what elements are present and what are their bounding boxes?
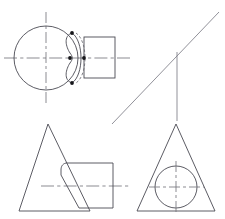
diagonal-construction-line bbox=[112, 12, 219, 124]
vertex-dot-top bbox=[70, 31, 74, 35]
vertex-dot-inner bbox=[68, 56, 72, 60]
curved-block-outline bbox=[61, 163, 113, 208]
vertex-dot-outer bbox=[82, 56, 86, 60]
left-triangle-outline bbox=[19, 124, 90, 211]
view-triangle-with-block bbox=[19, 124, 131, 211]
vertex-dot-bottom bbox=[70, 81, 74, 85]
drawing-sheet bbox=[0, 0, 225, 219]
technical-drawing-canvas bbox=[0, 0, 225, 219]
flange-rectangle bbox=[84, 37, 115, 78]
view-triangle-with-inscribed-circle bbox=[137, 124, 215, 213]
view-circle-with-notch-and-flange bbox=[4, 12, 133, 104]
view-crosshair-with-diagonal bbox=[112, 12, 219, 124]
